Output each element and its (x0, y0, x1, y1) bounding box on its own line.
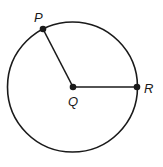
point-r (134, 84, 141, 91)
circle-diagram: P Q R (0, 0, 163, 167)
label-p: P (34, 10, 43, 25)
label-q: Q (68, 94, 78, 109)
point-p (40, 26, 47, 33)
point-q (70, 84, 77, 91)
label-r: R (144, 81, 153, 96)
radius-qp (43, 29, 73, 87)
